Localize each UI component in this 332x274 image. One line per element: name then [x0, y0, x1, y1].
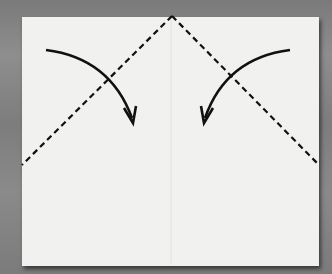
right-corner-fold-arrow-icon — [201, 50, 290, 123]
left-corner-fold-arrow-icon — [46, 50, 136, 123]
left-valley-fold-line — [22, 16, 172, 165]
right-valley-fold-line — [172, 16, 319, 165]
fold-diagram — [0, 0, 332, 274]
